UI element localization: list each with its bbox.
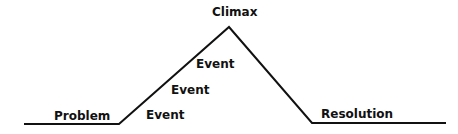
plot-diagram: Climax Event Event Event Problem Resolut… bbox=[0, 0, 458, 134]
label-event-1: Event bbox=[146, 109, 184, 121]
label-problem: Problem bbox=[54, 110, 110, 122]
label-climax: Climax bbox=[212, 6, 257, 18]
label-resolution: Resolution bbox=[321, 108, 393, 120]
label-event-3: Event bbox=[196, 58, 234, 70]
label-event-2: Event bbox=[171, 84, 209, 96]
